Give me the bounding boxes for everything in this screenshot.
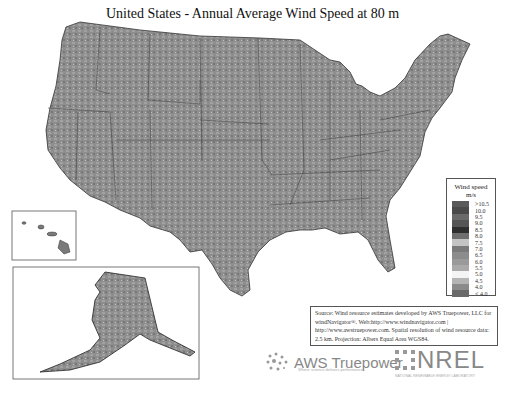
legend-label: 7.0 (475, 246, 483, 252)
legend-label: 8.0 (475, 233, 483, 239)
legend-label: 7.5 (475, 240, 483, 246)
nrel-logo: NREL NATIONAL RENEWABLE ENERGY LABORATOR… (395, 350, 415, 374)
legend-label: 10.0 (475, 208, 486, 214)
legend-label: >10.5 (475, 201, 489, 207)
legend-label: 4.0 (475, 284, 483, 290)
wind-speed-legend: Wind speed m/s >10.510.09.59.08.58.07.57… (446, 178, 496, 296)
source-note: Source: Wind resource estimates develope… (310, 306, 498, 346)
legend-label: 5.5 (475, 265, 483, 271)
nrel-mark-icon (395, 350, 415, 370)
legend-label: < 4.0 (475, 291, 487, 297)
legend-label: 4.5 (475, 278, 483, 284)
legend-entry: < 4.0 (452, 290, 489, 296)
aws-dots-icon (262, 350, 294, 374)
legend-label: 9.5 (475, 214, 483, 220)
legend-swatch (452, 290, 469, 296)
legend-label: 9.0 (475, 220, 483, 226)
contiguous-us (46, 22, 470, 296)
legend-label: 5.0 (475, 271, 483, 277)
legend-label: 6.5 (475, 252, 483, 258)
legend-title: Wind speed m/s (447, 183, 495, 199)
legend-entries: >10.510.09.59.08.58.07.57.06.56.05.55.04… (452, 201, 489, 297)
legend-label: 6.0 (475, 259, 483, 265)
legend-label: 8.5 (475, 227, 483, 233)
aws-truepower-logo: AWS Truepower Where science delivers per… (262, 350, 403, 374)
